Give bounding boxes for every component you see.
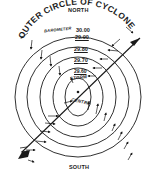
south-label: SOUTH xyxy=(69,164,89,170)
ring-label-29-90: 29.90 xyxy=(75,34,89,40)
ring-label-29-80: 29.80 xyxy=(74,46,88,52)
ring-label-29-70: 29.70 xyxy=(74,57,88,63)
ring-label-29-60: 29.60 xyxy=(74,68,87,74)
cyclone-rings-svg: OUTER CIRCLE OF CYCLONE xyxy=(0,0,155,173)
ring-label-30-00: 30.00 xyxy=(76,27,90,33)
cyclone-diagram: OUTER CIRCLE OF CYCLONE NORTH BAROMETER … xyxy=(0,0,155,173)
north-label: NORTH xyxy=(68,7,89,13)
centre-dot xyxy=(77,91,80,94)
